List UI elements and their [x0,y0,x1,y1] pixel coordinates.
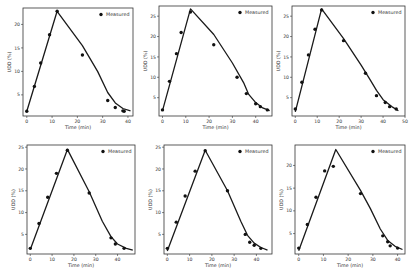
x-axis-label: Time (min) [336,263,363,268]
x-tick-label: 50 [402,119,408,124]
figure-canvas: 0102030405101520Time (min)UDD (%)Measure… [0,0,415,274]
measured-point [323,169,326,172]
measured-point [297,246,300,249]
x-tick-label: 30 [231,257,237,262]
measured-point [25,110,28,113]
measured-point [332,165,335,168]
x-tick-label: 20 [71,257,77,262]
measured-point [48,33,51,36]
y-axis-label: UDD (%) [11,189,16,210]
chart-panel-4: 010203040510152025Time (min)UDD (%)Measu… [11,145,135,268]
x-axis-label: Time (min) [334,125,361,130]
legend-marker-icon [238,150,241,153]
measured-point [313,28,316,31]
legend-label: Measured [106,12,129,17]
y-tick-label: 25 [18,145,24,150]
y-tick-label: 25 [150,14,156,19]
measured-point [266,108,269,111]
x-tick-label: 0 [161,119,164,124]
legend-label: Measured [378,149,401,154]
measured-point [114,106,117,109]
legend-marker-icon [371,11,374,14]
measured-point [388,105,391,108]
model-line [299,150,403,251]
measured-point [55,10,58,13]
legend-marker-icon [371,150,374,153]
y-axis-label: UDD (%) [7,52,12,73]
measured-point [46,196,49,199]
measured-point [244,233,247,236]
x-tick-label: 40 [125,119,131,124]
x-tick-label: 30 [358,119,364,124]
y-tick-label: 25 [155,145,161,150]
y-tick-label: 15 [155,188,161,193]
y-tick-label: 5 [158,232,161,237]
y-tick-label: 10 [18,210,24,215]
y-tick-label: 15 [18,188,24,193]
y-tick-label: 20 [286,163,292,168]
y-tick-label: 5 [21,232,24,237]
measured-point [175,52,178,55]
x-axis-label: Time (min) [204,263,231,268]
x-tick-label: 0 [29,257,32,262]
measured-point [254,102,257,105]
x-tick-label: 20 [74,119,80,124]
y-tick-label: 15 [14,46,20,51]
measured-point [259,247,262,250]
chart-panel-5: 010203040510152025Time (min)UDD (%)Measu… [148,145,272,268]
x-tick-label: 30 [229,119,235,124]
legend-marker-icon [101,150,104,153]
measured-point [55,172,58,175]
measured-point [212,43,215,46]
x-tick-label: 20 [345,257,351,262]
measured-point [166,247,169,250]
x-tick-label: 40 [253,257,259,262]
measured-point [396,246,399,249]
chart-panel-6: 0102030405101520Time (min)UDD (%)Measure… [279,145,405,268]
x-tick-label: 20 [209,257,215,262]
x-tick-label: 30 [93,257,99,262]
measured-point [81,53,84,56]
y-tick-label: 10 [155,210,161,215]
measured-point [395,107,398,110]
x-tick-label: 10 [187,257,193,262]
x-axis-label: Time (min) [64,125,91,130]
legend-label: Measured [245,149,268,154]
measured-point [300,80,303,83]
measured-point [235,76,238,79]
model-line [163,9,270,111]
y-axis-label: UDD (%) [279,189,284,210]
x-axis-label: Time (min) [201,125,228,130]
y-tick-label: 10 [283,75,289,80]
y-tick-label: 15 [286,186,292,191]
y-tick-label: 20 [14,22,20,27]
measured-point [37,222,40,225]
measured-point [359,192,362,195]
measured-point [252,244,255,247]
x-tick-label: 20 [206,119,212,124]
measured-point [294,107,297,110]
measured-point [342,39,345,42]
model-line [27,11,131,111]
x-tick-label: 40 [115,257,121,262]
x-tick-label: 0 [297,257,300,262]
x-tick-label: 10 [49,119,55,124]
measured-point [189,10,192,13]
measured-point [259,105,262,108]
measured-point [175,220,178,223]
model-line [30,149,133,250]
measured-point [161,108,164,111]
measured-point [307,53,310,56]
y-tick-label: 15 [150,55,156,60]
chart-panel-1: 0102030405101520Time (min)UDD (%)Measure… [7,8,133,130]
y-axis-label: UDD (%) [276,51,281,72]
y-tick-label: 10 [150,75,156,80]
x-tick-label: 40 [395,257,401,262]
legend-label: Measured [108,149,131,154]
y-tick-label: 15 [283,55,289,60]
measured-point [381,234,384,237]
y-tick-label: 5 [153,95,156,100]
y-tick-label: 5 [17,92,20,97]
y-tick-label: 10 [14,69,20,74]
x-tick-label: 0 [25,119,28,124]
